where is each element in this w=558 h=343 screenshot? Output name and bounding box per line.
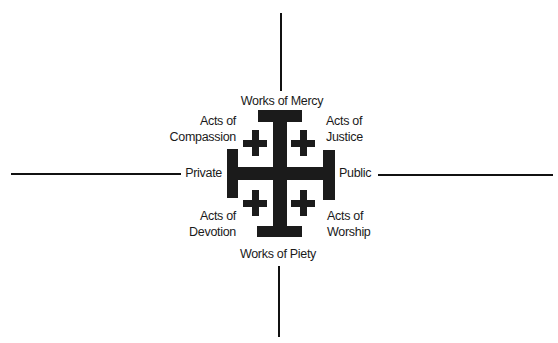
small-cross-top-left-icon [243,130,267,156]
small-cross-bottom-right-icon [291,190,315,216]
small-cross-top-right-icon [291,130,315,156]
small-cross-bottom-left-icon [243,190,267,216]
jerusalem-cross-icon [0,0,558,343]
cross-horizontal-shaft [227,167,335,180]
